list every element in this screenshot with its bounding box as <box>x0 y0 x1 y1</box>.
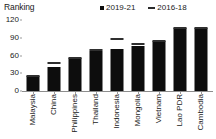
x-label-slot: Philippines <box>64 92 85 139</box>
bar-slot <box>191 20 212 91</box>
bar-group <box>22 20 212 91</box>
bar-slot <box>170 20 191 91</box>
marker-2016-18 <box>195 27 208 29</box>
bar-slot <box>128 20 149 91</box>
marker-2016-18 <box>89 49 102 51</box>
x-tick-label: Mongolia <box>134 94 142 126</box>
x-label-slot: Mongolia <box>128 92 149 139</box>
legend-item-1: 2016-18 <box>148 3 186 13</box>
x-tick-label: Lao PDR <box>176 94 184 126</box>
x-tick-label: China <box>50 94 58 115</box>
marker-2016-18 <box>153 40 166 42</box>
x-label-slot: China <box>43 92 64 139</box>
x-tick-label: Thailand <box>92 94 100 125</box>
marker-2016-18 <box>132 43 145 45</box>
y-tick-label: 0 <box>15 87 19 95</box>
x-label-slot: Indonesia <box>106 92 127 139</box>
y-axis-title: Ranking <box>4 2 35 12</box>
filled-square-icon <box>100 6 104 10</box>
bar-2019-21 <box>132 46 145 91</box>
bar-slot <box>85 20 106 91</box>
bar-slot <box>22 20 43 91</box>
legend-label-0: 2019-21 <box>106 3 135 13</box>
bar-2019-21 <box>89 51 102 91</box>
x-label-slot: Lao PDR <box>170 92 191 139</box>
x-tick-label: Philippines <box>71 94 79 133</box>
y-tick-label: 60 <box>10 52 19 60</box>
y-tick-label: 30 <box>10 69 19 77</box>
marker-2016-18 <box>68 57 81 59</box>
x-label-slot: Cambodia <box>191 92 212 139</box>
x-axis-labels: MalaysiaChinaPhilippinesThailandIndonesi… <box>22 92 212 139</box>
bar-slot <box>43 20 64 91</box>
bar-slot <box>149 20 170 91</box>
x-tick-label: Vietnam <box>155 94 163 123</box>
bar-slot <box>106 20 127 91</box>
y-tick-label: 120 <box>6 16 19 24</box>
bar-2019-21 <box>195 28 208 91</box>
bar-2019-21 <box>174 28 187 91</box>
bar-2019-21 <box>153 41 166 91</box>
plot-area: 0306090120 <box>22 20 212 91</box>
bar-2019-21 <box>47 67 60 91</box>
x-tick-label: Indonesia <box>113 94 121 129</box>
x-label-slot: Vietnam <box>149 92 170 139</box>
legend-label-1: 2016-18 <box>157 3 186 13</box>
y-tick-label: 90 <box>10 34 19 42</box>
marker-2016-18 <box>47 62 60 64</box>
legend-item-0: 2019-21 <box>100 3 135 13</box>
bar-2019-21 <box>68 58 81 91</box>
marker-2016-18 <box>26 75 39 77</box>
x-tick-label: Malaysia <box>29 94 37 126</box>
dash-icon <box>148 7 155 9</box>
x-label-slot: Malaysia <box>22 92 43 139</box>
bar-2019-21 <box>26 76 39 91</box>
bar-2019-21 <box>110 49 123 91</box>
chart-legend: 2019-21 2016-18 <box>100 3 187 13</box>
marker-2016-18 <box>110 38 123 40</box>
x-label-slot: Thailand <box>85 92 106 139</box>
ranking-bar-chart: Ranking 2019-21 2016-18 0306090120 Malay… <box>0 0 216 139</box>
bar-slot <box>64 20 85 91</box>
x-tick-label: Cambodia <box>197 94 205 130</box>
marker-2016-18 <box>174 27 187 29</box>
